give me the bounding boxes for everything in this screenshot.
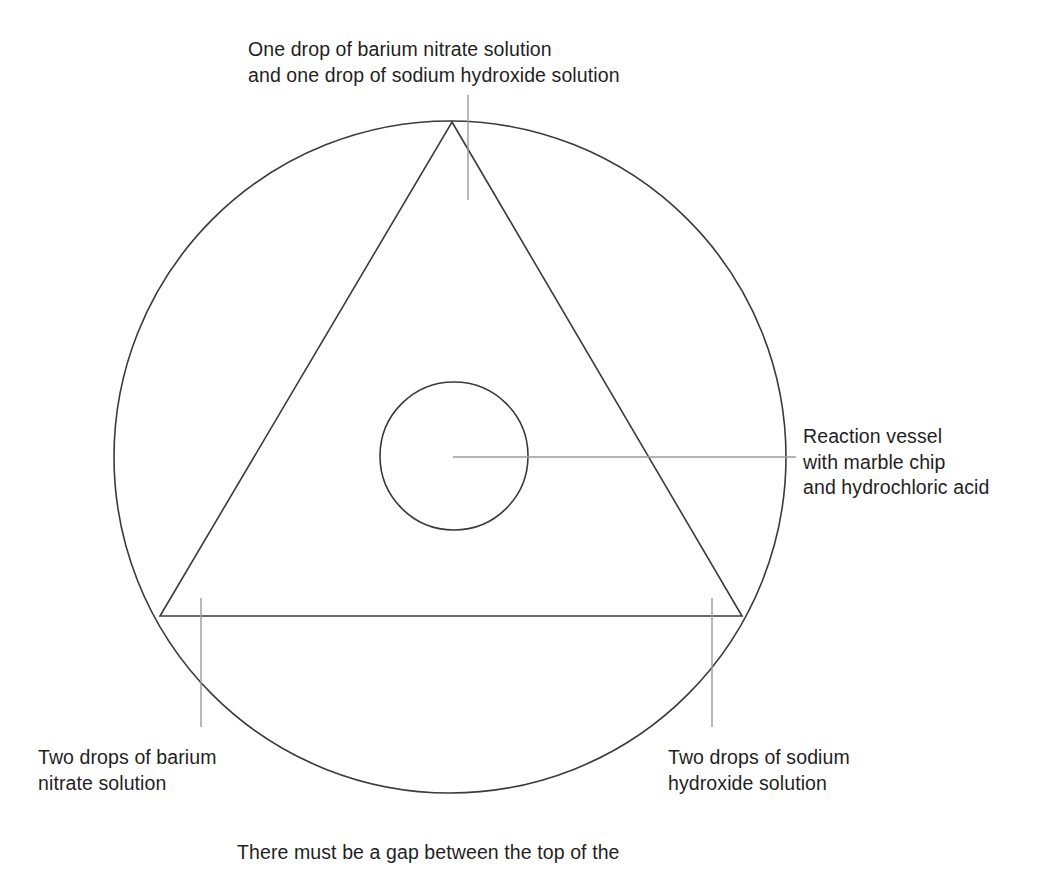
inner-circle [380,382,528,530]
label-top-drops: One drop of barium nitrate solution and … [248,37,620,88]
triangle [160,122,742,616]
label-sodium-hydroxide-drops: Two drops of sodium hydroxide solution [668,745,850,796]
label-reaction-vessel: Reaction vessel with marble chip and hyd… [803,424,989,501]
figure-caption: There must be a gap between the top of t… [237,840,620,866]
diagram-root: One drop of barium nitrate solution and … [0,0,1058,871]
label-barium-nitrate-drops: Two drops of barium nitrate solution [38,745,217,796]
